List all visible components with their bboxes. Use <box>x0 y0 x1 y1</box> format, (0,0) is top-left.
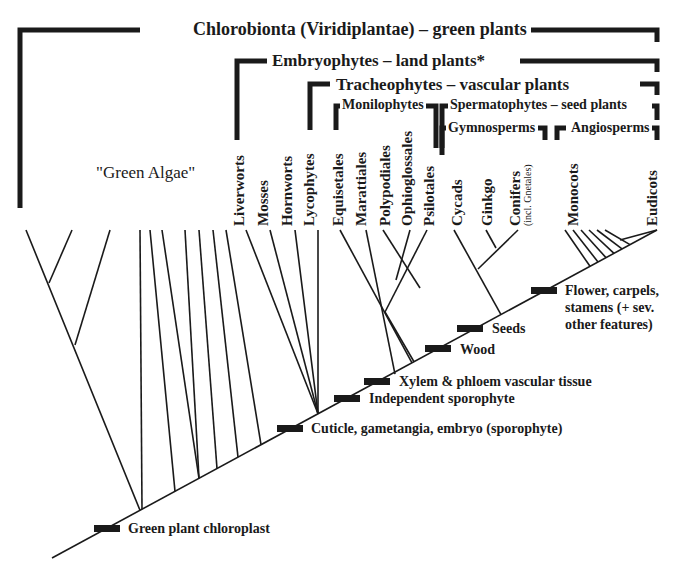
synapomorphy-marker <box>457 325 483 332</box>
taxon-label: Cycads <box>450 179 465 226</box>
branch-algae-lineage <box>150 230 175 491</box>
synapomorphy-marker <box>531 287 557 294</box>
clade-monilophytes-label: Monilophytes <box>340 98 426 112</box>
branch-ginkgo <box>486 230 496 248</box>
bracket-monilophytes <box>336 106 436 148</box>
synapomorphy-label: Independent sporophyte <box>369 390 515 407</box>
synapomorphy-marker <box>364 378 390 385</box>
branch-conifers <box>478 230 518 269</box>
taxon-label: Ophioglossales <box>400 131 415 226</box>
taxon-label: Marattiales <box>354 152 369 226</box>
taxon-label: Psilotales <box>422 166 437 226</box>
taxon-label: Liverworts <box>232 155 247 226</box>
branch-algae-lineage <box>162 230 199 478</box>
branch-algae-2 <box>49 230 72 283</box>
clade-embryophytes-label: Embryophytes – land plants* <box>268 52 489 69</box>
taxon-label: Ginkgo <box>480 178 495 226</box>
synapomorphy-marker <box>334 395 360 402</box>
synapomorphy-label-line: other features) <box>565 316 659 333</box>
taxon-label: Lycophytes <box>302 153 317 226</box>
synapomorphy-label: Flower, carpels,stamens (+ sev.other fea… <box>565 282 659 333</box>
branch-algae-lineage <box>213 230 238 457</box>
synapomorphy-label: Cuticle, gametangia, embryo (sporophyte) <box>311 420 562 437</box>
synapomorphy-label-line: stamens (+ sev. <box>565 299 659 316</box>
synapomorphy-marker <box>94 525 120 532</box>
synapomorphy-marker <box>425 345 451 352</box>
taxon-label: Hornworts <box>280 156 295 226</box>
synapomorphy-label: Wood <box>460 341 495 358</box>
clade-angiosperms-label: Angiosperms <box>569 121 652 135</box>
clade-spermatophytes-label: Spermatophytes – seed plants <box>448 98 629 112</box>
branch-algae-lineage <box>226 230 261 445</box>
taxon-label: Eudicots <box>645 170 660 226</box>
branch-algae-lineage <box>140 230 142 509</box>
branch-monocot <box>605 230 630 245</box>
clade-chlorobionta-label: Chlorobionta (Viridiplantae) – green pla… <box>189 20 531 38</box>
synapomorphy-label: Seeds <box>492 320 525 337</box>
synapomorphy-label: Green plant chloroplast <box>128 520 270 537</box>
synapomorphy-label: Xylem & phloem vascular tissue <box>399 373 592 390</box>
taxon-label: Polypodiales <box>378 145 393 226</box>
branch-mosses <box>270 230 318 414</box>
branch-eudicots <box>620 230 657 240</box>
branch-fern-stem <box>385 312 414 362</box>
taxon-label: Mosses <box>256 180 271 226</box>
taxon-sublabel: (incl. Gnetales) <box>523 164 533 226</box>
clade-gymnosperms-label: Gymnosperms <box>446 121 537 135</box>
synapomorphy-marker <box>277 425 303 432</box>
taxon-label: Monocots <box>566 164 581 227</box>
branch-algae-lineage <box>185 230 199 478</box>
branch-algae-lineage <box>199 230 217 469</box>
branch-algae-3 <box>75 230 110 345</box>
branches <box>26 230 657 558</box>
branch-algae-1 <box>26 230 140 510</box>
branch-equisetales <box>340 230 412 363</box>
synapomorphy-label-line: Flower, carpels, <box>565 282 659 299</box>
taxon-label: Equisetales <box>331 153 346 226</box>
green-algae-label: "Green Algae" <box>96 163 195 183</box>
clade-tracheophytes-label: Tracheophytes – vascular plants <box>332 76 573 93</box>
taxon-label: Conifers(incl. Gnetales) <box>508 164 533 226</box>
